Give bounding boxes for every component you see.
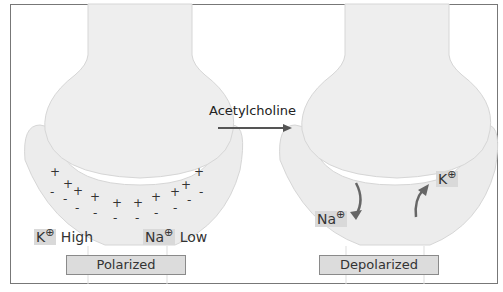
svg-text:+: + [90, 190, 100, 204]
svg-text:+: + [181, 178, 191, 192]
svg-text:-: - [135, 211, 139, 225]
right-presynaptic-terminal [302, 4, 491, 178]
depolarized-state-label: Depolarized [319, 255, 439, 275]
left-presynaptic-terminal [45, 4, 234, 178]
svg-text:+: + [112, 196, 122, 210]
svg-text:-: - [63, 192, 67, 206]
na-influx-label: Na⊕ [315, 208, 347, 227]
svg-text:-: - [187, 193, 191, 207]
svg-text:-: - [199, 185, 203, 199]
svg-text:+: + [133, 196, 143, 210]
svg-text:+: + [194, 165, 204, 179]
na-ion-badge: Na⊕ [143, 229, 175, 245]
svg-text:-: - [93, 206, 97, 220]
svg-text:+: + [63, 177, 73, 191]
k-ion-badge: K⊕ [34, 229, 56, 245]
svg-text:-: - [113, 211, 117, 225]
polarized-state-label: Polarized [66, 255, 186, 275]
svg-text:+: + [151, 190, 161, 204]
svg-text:-: - [173, 201, 177, 215]
acetylcholine-label: Acetylcholine [209, 103, 296, 118]
k-ion-badge-right: K⊕ [436, 171, 458, 187]
k-high-label: K⊕ High [34, 226, 93, 245]
svg-text:-: - [50, 185, 54, 199]
svg-text:-: - [154, 206, 158, 220]
diagram-graphics: +++ +++ +++ + --- --- --- - [0, 0, 503, 292]
svg-text:+: + [73, 184, 83, 198]
k-efflux-label: K⊕ [436, 168, 458, 187]
na-low-label: Na⊕ Low [143, 226, 207, 245]
svg-text:+: + [50, 165, 60, 179]
svg-text:+: + [170, 185, 180, 199]
na-ion-badge-right: Na⊕ [315, 211, 347, 227]
svg-text:-: - [75, 201, 79, 215]
